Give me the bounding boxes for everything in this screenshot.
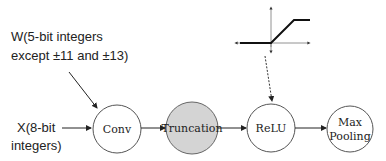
- relu-label: ReLU: [256, 122, 287, 135]
- plot-to-relu-dashed-arrow: [265, 56, 272, 101]
- input-label-line1: X(8-bit: [17, 120, 56, 135]
- input-label-line2: integers): [11, 138, 62, 153]
- truncation-label: Truncation: [161, 122, 222, 135]
- weights-arrow: [69, 72, 97, 108]
- relu-activation-plot: [236, 8, 310, 52]
- pipeline-diagram: W(5-bit integers except ±11 and ±13) X(8…: [0, 0, 386, 161]
- weights-label-line1: W(5-bit integers: [11, 29, 103, 44]
- maxpool-label-line1: Max: [338, 116, 363, 129]
- maxpool-label-line2: Pooling: [329, 130, 370, 143]
- clipped-relu-curve: [240, 20, 310, 43]
- maxpool-node: [327, 106, 373, 152]
- conv-label: Conv: [103, 123, 132, 136]
- weights-label-line2: except ±11 and ±13): [11, 48, 128, 63]
